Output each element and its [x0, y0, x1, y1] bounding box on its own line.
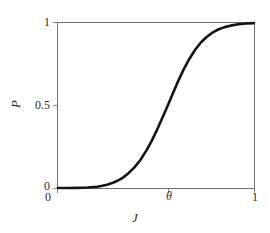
figure-canvas: P 1 0.5 0 0 θ 1 J	[0, 0, 270, 233]
y-axis-title: P	[8, 100, 24, 108]
x-tick-label-0: 0	[41, 191, 55, 203]
x-axis-title: J	[0, 210, 270, 226]
sigmoid-curve	[58, 23, 254, 188]
y-tick-label-0-5: 0.5	[35, 99, 50, 111]
x-tick-label-1: 1	[248, 191, 262, 203]
plot-area	[57, 22, 255, 189]
sigmoid-curve-svg	[58, 23, 254, 188]
x-tick-mark-0	[57, 189, 58, 193]
y-tick-label-1: 1	[44, 16, 50, 28]
x-tick-label-theta: θ	[161, 190, 177, 202]
